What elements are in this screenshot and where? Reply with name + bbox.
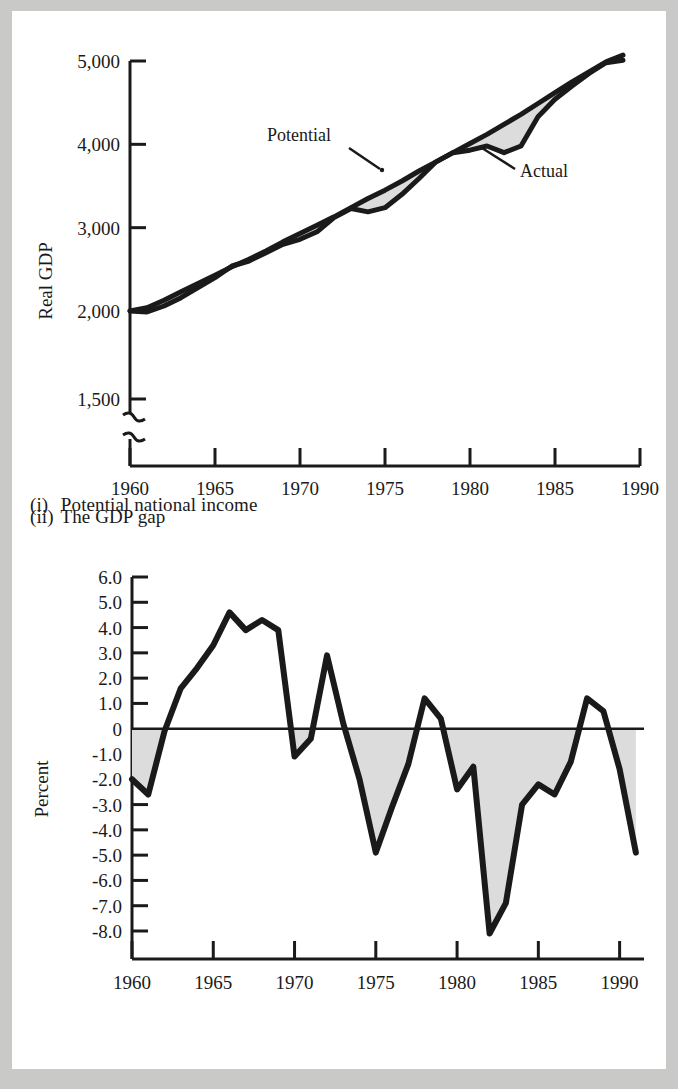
axes-top	[123, 61, 640, 466]
x-tick-label-bottom: 1980	[438, 972, 476, 993]
x-tick-label-bottom: 1975	[357, 972, 395, 993]
y-tick-label-top: 5,000	[77, 51, 120, 72]
y-tick-label-bottom: -7.0	[92, 896, 122, 917]
annotation-label-actual: Actual	[520, 161, 568, 181]
annotation-leader-potential	[349, 148, 380, 169]
x-tick-label-top: 1970	[281, 478, 319, 499]
x-tick-label-top: 1975	[366, 478, 404, 499]
y-axis-tick-labels-bottom: 6.05.04.03.02.01.00-1.0-2.0-3.0-4.0-5.0-…	[92, 567, 122, 942]
y-tick-label-bottom: -3.0	[92, 795, 122, 816]
y-tick-label-bottom: 4.0	[98, 618, 122, 639]
y-tick-label-bottom: -6.0	[92, 870, 122, 891]
y-axis-title-bottom: Percent	[31, 760, 52, 818]
x-tick-label-bottom: 1960	[113, 972, 151, 993]
caption-text-ii: The GDP gap	[61, 506, 166, 527]
y-tick-label-bottom: 3.0	[98, 643, 122, 664]
potential-gdp-line	[130, 55, 623, 311]
caption-gdp-gap: (ii) The GDP gap	[30, 506, 165, 528]
y-tick-label-bottom: 1.0	[98, 693, 122, 714]
chart-top-svg: 1,5002,0003,0004,0005,000 19601965197019…	[12, 11, 666, 531]
annotation-tip-potential	[380, 168, 384, 172]
y-tick-label-bottom: 5.0	[98, 592, 122, 613]
x-tick-label-bottom: 1990	[601, 972, 639, 993]
y-tick-label-bottom: -1.0	[92, 744, 122, 765]
axis-break-upper-icon	[123, 413, 145, 421]
y-tick-label-top: 2,000	[77, 301, 120, 322]
y-tick-label-bottom: -2.0	[92, 769, 122, 790]
figure-container: 1,5002,0003,0004,0005,000 19601965197019…	[0, 0, 678, 1089]
caption-numeral-ii: (ii)	[30, 506, 56, 528]
x-tick-label-top: 1985	[536, 478, 574, 499]
chart-potential-national-income: 1,5002,0003,0004,0005,000 19601965197019…	[12, 11, 666, 531]
x-tick-label-bottom: 1965	[194, 972, 232, 993]
plot-area-top	[130, 55, 623, 312]
y-axis-tick-labels-top: 1,5002,0003,0004,0005,000	[77, 51, 120, 410]
y-tick-label-top: 1,500	[77, 389, 120, 410]
x-tick-label-bottom: 1985	[519, 972, 557, 993]
y-tick-label-bottom: 6.0	[98, 567, 122, 588]
x-axis-tick-labels-bottom: 1960196519701975198019851990	[113, 972, 639, 993]
chart-gdp-gap: 6.05.04.03.02.01.00-1.0-2.0-3.0-4.0-5.0-…	[12, 539, 666, 1069]
y-tick-label-bottom: -5.0	[92, 845, 122, 866]
chart-bottom-svg: 6.05.04.03.02.01.00-1.0-2.0-3.0-4.0-5.0-…	[12, 539, 666, 1039]
axis-break-lower-icon	[123, 433, 145, 441]
y-tick-label-top: 4,000	[77, 134, 120, 155]
y-tick-label-bottom: 0	[113, 719, 123, 740]
x-tick-label-top: 1990	[621, 478, 659, 499]
y-axis-title-top: Real GDP	[35, 242, 56, 320]
x-tick-label-bottom: 1970	[276, 972, 314, 993]
negative-gap-shaded-area	[132, 612, 636, 933]
annotation-label-potential: Potential	[267, 125, 331, 145]
plot-area-bottom	[132, 612, 644, 933]
y-tick-label-top: 3,000	[77, 218, 120, 239]
figure-paper: 1,5002,0003,0004,0005,000 19601965197019…	[12, 11, 666, 1069]
y-tick-label-bottom: -4.0	[92, 820, 122, 841]
y-tick-label-bottom: -8.0	[92, 921, 122, 942]
x-tick-label-top: 1980	[451, 478, 489, 499]
y-tick-label-bottom: 2.0	[98, 668, 122, 689]
